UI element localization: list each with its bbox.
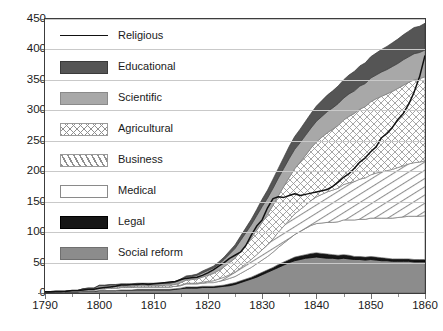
legend-item[interactable]: Legal: [60, 210, 220, 241]
x-tick-mark: [181, 294, 182, 297]
legend-item[interactable]: Business: [60, 148, 220, 179]
legend-label: Educational: [118, 59, 176, 74]
legend-item[interactable]: Social reform: [60, 241, 220, 272]
legend: ReligiousEducationalScientificAgricultur…: [60, 24, 220, 272]
x-tick-mark: [398, 294, 399, 297]
legend-swatch-agricultural: [60, 123, 108, 136]
legend-swatch-legal: [60, 216, 108, 229]
x-tick-label: 1840: [286, 299, 346, 311]
x-tick-mark: [371, 294, 372, 299]
x-tick-mark: [208, 294, 209, 299]
x-tick-label: 1850: [341, 299, 401, 311]
legend-swatch-scientific: [60, 92, 108, 105]
legend-item[interactable]: Religious: [60, 24, 220, 55]
x-tick-mark: [126, 294, 127, 297]
legend-item[interactable]: Medical: [60, 179, 220, 210]
x-tick-mark: [289, 294, 290, 297]
legend-swatch-social: [60, 247, 108, 260]
x-tick-mark: [99, 294, 100, 299]
legend-swatch-line: [60, 35, 108, 36]
x-tick-mark: [235, 294, 236, 297]
legend-swatch-educational: [60, 61, 108, 74]
x-tick-mark: [154, 294, 155, 299]
legend-swatch-business: [60, 154, 108, 167]
legend-label: Medical: [118, 183, 156, 198]
x-tick-mark: [425, 294, 426, 299]
legend-label: Legal: [118, 214, 145, 229]
x-tick-label: 1830: [232, 299, 292, 311]
legend-label: Agricultural: [118, 121, 173, 136]
legend-item[interactable]: Agricultural: [60, 117, 220, 148]
x-tick-mark: [344, 294, 345, 297]
x-tick-label: 1790: [15, 299, 75, 311]
legend-label: Scientific: [118, 90, 162, 105]
legend-label: Social reform: [118, 245, 183, 260]
legend-item[interactable]: Scientific: [60, 86, 220, 117]
x-tick-mark: [45, 294, 46, 299]
x-tick-mark: [316, 294, 317, 299]
legend-swatch-medical: [60, 185, 108, 198]
x-tick-label: 1860: [395, 299, 443, 311]
legend-label: Religious: [118, 28, 163, 43]
x-tick-label: 1810: [124, 299, 184, 311]
legend-label: Business: [118, 152, 163, 167]
x-tick-label: 1800: [69, 299, 129, 311]
gridline: [45, 19, 425, 20]
legend-item[interactable]: Educational: [60, 55, 220, 86]
x-tick-mark: [72, 294, 73, 297]
x-tick-mark: [262, 294, 263, 299]
x-tick-label: 1820: [178, 299, 238, 311]
